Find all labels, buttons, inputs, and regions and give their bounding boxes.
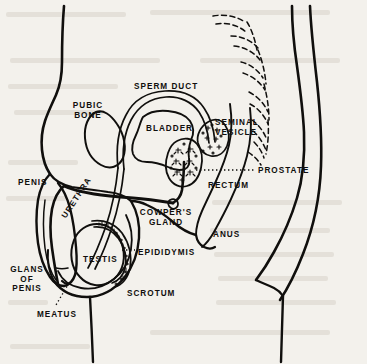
- glans-demarcation: [56, 268, 68, 269]
- label-glans-of-penis: GLANS OF PENIS: [10, 265, 44, 294]
- label-scrotum: SCROTUM: [127, 289, 175, 299]
- back-contour: [256, 6, 304, 280]
- label-anus: ANUS: [213, 230, 240, 240]
- label-testis: TESTIS: [83, 255, 118, 265]
- label-rectum: RECTUM: [208, 181, 249, 191]
- sacrum-vertebrae-dashed: [213, 15, 269, 165]
- label-prostate: PROSTATE: [258, 166, 309, 176]
- label-meatus: MEATUS: [37, 310, 77, 320]
- label-penis: PENIS: [18, 178, 48, 188]
- label-cowpers-gland: COWPER'S GLAND: [140, 208, 192, 227]
- sperm-duct-descending-inner: [95, 169, 124, 269]
- label-epididymis: EPIDIDYMIS: [138, 248, 195, 258]
- label-sperm-duct: SPERM DUCT: [134, 82, 198, 92]
- gluteal-fold: [256, 280, 283, 296]
- abdomen-front-contour: [42, 6, 64, 174]
- front-thigh-line: [90, 297, 93, 362]
- label-bladder: BLADDER: [146, 124, 193, 134]
- label-pubic-bone: PUBIC BONE: [73, 101, 103, 120]
- label-seminal-vesicle: SEMINAL VESICLE: [215, 118, 259, 137]
- urethra-prostatic-trunk: [173, 162, 184, 203]
- rear-thigh-line: [281, 296, 283, 362]
